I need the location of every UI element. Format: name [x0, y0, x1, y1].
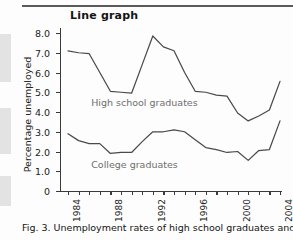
figure-page: Line graph Percentage unemployed 8.07.06…	[0, 0, 293, 240]
y-axis-label: Percentage unemployed	[22, 55, 33, 175]
y-tick-label: 4.0	[35, 107, 50, 118]
x-tick-label: 2000	[242, 199, 252, 222]
x-tick-label: 1984	[72, 199, 82, 222]
y-tick-label: 1.0	[35, 166, 50, 177]
y-tick-label: 0	[44, 186, 50, 197]
series-annotation-college-graduates: College graduates	[91, 159, 178, 170]
chart-title: Line graph	[70, 9, 138, 22]
x-tick-label: 1992	[157, 199, 167, 222]
page-margin-artifact	[0, 108, 11, 154]
y-tick-label: 8.0	[35, 28, 50, 39]
x-tick-label: 1988	[114, 199, 124, 222]
y-tick-label: 2.0	[35, 146, 50, 157]
series-line-high-school-graduates	[68, 36, 280, 121]
page-margin-artifact	[0, 176, 11, 206]
x-tick-label: 2004	[284, 199, 293, 222]
plot-area: 8.07.06.05.04.03.02.01.00 19841988199219…	[60, 28, 282, 192]
y-tick-label: 3.0	[35, 126, 50, 137]
x-tick-label: 1996	[199, 199, 209, 222]
y-tick-label: 7.0	[35, 47, 50, 58]
series-annotation-high-school-graduates: High school graduates	[91, 97, 197, 108]
header-rule	[22, 5, 293, 7]
y-tick-label: 5.0	[35, 87, 50, 98]
series-line-college-graduates	[68, 121, 280, 161]
page-margin-artifact	[0, 34, 11, 82]
figure-caption: Fig. 3. Unemployment rates of high schoo…	[22, 222, 290, 233]
y-tick-label: 6.0	[35, 67, 50, 78]
